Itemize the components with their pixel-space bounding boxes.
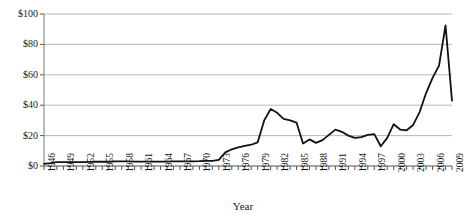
x-axis-title: Year	[198, 200, 288, 212]
x-tick-label-1955: 1955	[106, 153, 116, 172]
x-tick-label-1979: 1979	[262, 153, 272, 172]
x-tick-label-1967: 1967	[184, 153, 194, 172]
x-tick-label-1958: 1958	[126, 153, 136, 172]
data-series-line	[44, 25, 452, 163]
y-tick-label-100: $100	[4, 9, 38, 19]
y-tick-label-0: $0	[4, 161, 38, 171]
x-tick-label-1952: 1952	[87, 153, 97, 172]
x-tick-label-1961: 1961	[145, 153, 155, 172]
oil-price-line-chart: $100 $80 $60 $40 $20 $0 1946194919521955…	[0, 0, 466, 219]
y-tick-label-60: $60	[4, 70, 38, 80]
x-tick-label-1982: 1982	[281, 153, 291, 172]
x-tick-label-2003: 2003	[417, 153, 427, 172]
x-tick-label-1970: 1970	[203, 153, 213, 172]
x-tick-label-1985: 1985	[301, 153, 311, 172]
x-tick-label-1973: 1973	[223, 153, 233, 172]
x-tick-label-1964: 1964	[165, 153, 175, 172]
x-tick-label-2006: 2006	[437, 153, 447, 172]
y-tick-label-40: $40	[4, 100, 38, 110]
x-tick-label-1976: 1976	[242, 153, 252, 172]
x-tick-label-1988: 1988	[320, 153, 330, 172]
plot-area	[0, 0, 466, 219]
x-tick-label-1991: 1991	[339, 153, 349, 172]
x-tick-label-1949: 1949	[67, 153, 77, 172]
x-tick-label-1997: 1997	[378, 153, 388, 172]
x-tick-label-1946: 1946	[48, 153, 58, 172]
gridlines	[40, 14, 452, 166]
y-tick-label-80: $80	[4, 39, 38, 49]
y-tick-label-20: $20	[4, 131, 38, 141]
x-tick-label-2000: 2000	[398, 153, 408, 172]
x-tick-label-1994: 1994	[359, 153, 369, 172]
x-tick-label-2009: 2009	[456, 153, 466, 172]
